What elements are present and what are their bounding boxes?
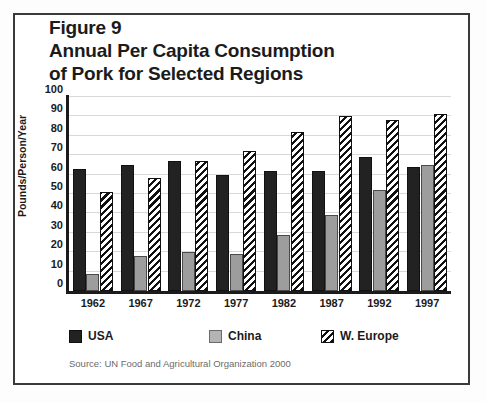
legend-item-china[interactable]: China (209, 329, 261, 343)
bar-usa-1962 (73, 169, 86, 291)
title-line-2: Annual Per Capita Consumption (49, 39, 429, 62)
bar-group (165, 97, 213, 291)
y-axis-tick-label: 60 (33, 162, 63, 173)
bar-usa-1982 (264, 171, 277, 291)
bar-china-1967 (134, 256, 147, 291)
bar-china-1972 (182, 252, 195, 291)
y-axis-tick-label: 100 (33, 84, 63, 95)
bar-w-europe-1987 (339, 116, 352, 291)
x-axis-tick-label: 1997 (397, 297, 457, 309)
legend-label: China (228, 329, 261, 343)
bar-w-europe-1977 (243, 151, 256, 291)
bar-group (308, 97, 356, 291)
y-axis-tick-label: 40 (33, 200, 63, 211)
legend-item-usa[interactable]: USA (69, 329, 113, 343)
bar-group (260, 97, 308, 291)
bar-w-europe-1972 (195, 161, 208, 291)
bar-china-1982 (277, 235, 290, 291)
legend-item-w-europe[interactable]: W. Europe (321, 329, 399, 343)
bar-usa-1967 (121, 165, 134, 291)
y-axis-tick-label: 50 (33, 181, 63, 192)
y-axis-tick-label: 70 (33, 142, 63, 153)
source-note: Source: UN Food and Agricultural Organiz… (69, 358, 291, 369)
bar-group (69, 97, 117, 291)
figure-root: Figure 9 Annual Per Capita Consumption o… (0, 0, 487, 403)
plot-area (69, 97, 451, 291)
bar-china-1962 (86, 274, 99, 291)
bar-group (403, 97, 451, 291)
y-axis-title: Pounds/Person/Year (16, 96, 28, 236)
bar-china-1987 (325, 215, 338, 291)
bar-group (212, 97, 260, 291)
bar-usa-1972 (168, 161, 181, 291)
legend-label: W. Europe (340, 329, 399, 343)
y-axis-tick-label: 80 (33, 123, 63, 134)
y-axis-tick-labels: 0102030405060708090100 (29, 97, 63, 291)
bar-usa-1992 (359, 157, 372, 291)
bar-group (117, 97, 165, 291)
y-axis-tick-label: 10 (33, 259, 63, 270)
bar-w-europe-1982 (291, 132, 304, 291)
bar-usa-1997 (407, 167, 420, 291)
bar-usa-1977 (216, 175, 229, 291)
bar-group (356, 97, 404, 291)
y-axis-tick-label: 90 (33, 103, 63, 114)
y-axis-tick-label: 0 (33, 278, 63, 289)
diagonal-hatch-swatch (321, 330, 334, 343)
bar-china-1992 (373, 190, 386, 291)
bar-usa-1987 (312, 171, 325, 291)
title-line-1: Figure 9 (49, 16, 429, 39)
figure-title: Figure 9 Annual Per Capita Consumption o… (49, 16, 429, 85)
bar-china-1977 (230, 254, 243, 291)
y-axis-tick-label: 30 (33, 220, 63, 231)
legend-label: USA (88, 329, 113, 343)
solid-gray-swatch (209, 330, 222, 343)
title-line-3: of Pork for Selected Regions (49, 62, 429, 85)
y-axis-tick-label: 20 (33, 239, 63, 250)
x-axis-line (66, 291, 451, 294)
bar-china-1997 (421, 165, 434, 291)
bar-w-europe-1992 (386, 120, 399, 291)
solid-black-swatch (69, 330, 82, 343)
bar-w-europe-1962 (100, 192, 113, 291)
bar-w-europe-1967 (148, 178, 161, 291)
bar-w-europe-1997 (434, 114, 447, 291)
x-axis-tick-labels: 19621967197219771982198719921997 (69, 297, 451, 313)
